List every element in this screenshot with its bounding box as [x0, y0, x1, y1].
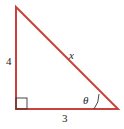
vertical-side-label: 4 [6, 55, 12, 67]
hypotenuse-label: x [68, 49, 74, 61]
right-angle-marker [16, 98, 27, 109]
angle-label: θ [83, 94, 89, 106]
horizontal-side-label: 3 [62, 112, 68, 124]
triangle-outline [16, 7, 118, 109]
triangle-diagram: 4 x 3 θ [0, 0, 124, 129]
angle-arc [94, 94, 99, 109]
